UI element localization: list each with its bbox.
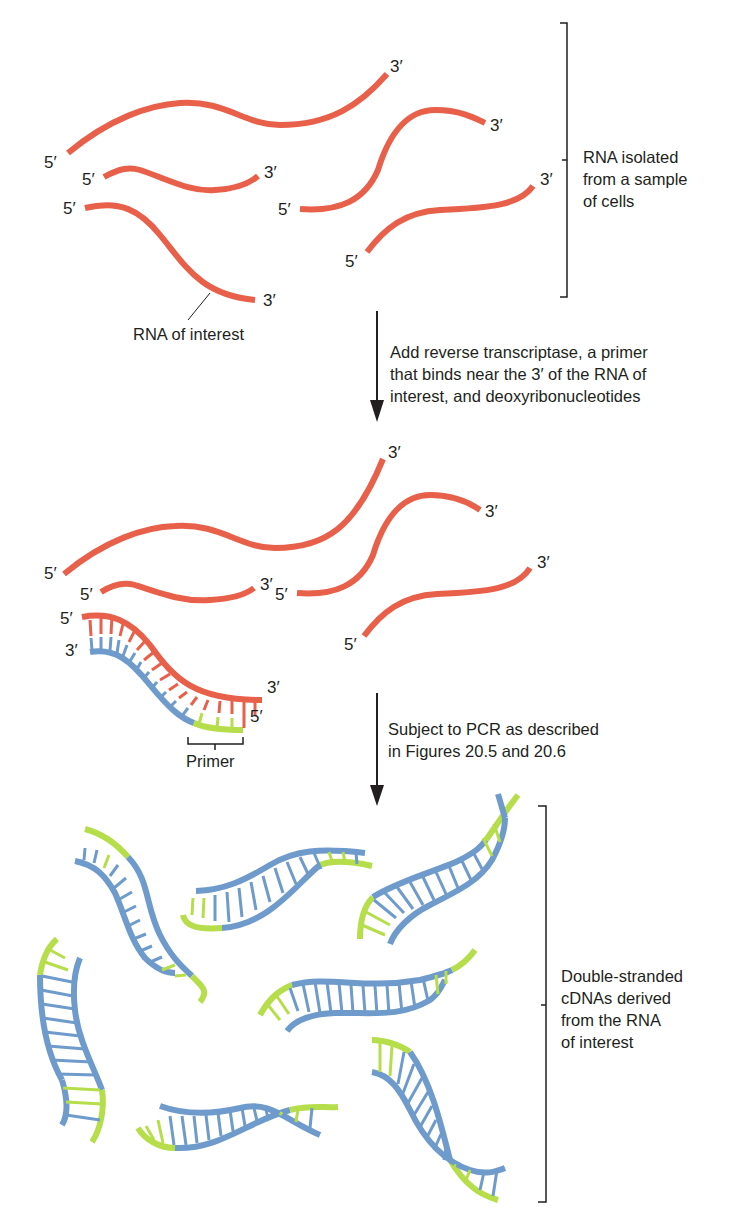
- three-prime-label: 3′: [485, 502, 498, 521]
- three-prime-label: 3′: [267, 678, 280, 697]
- three-prime-label: 3′: [65, 641, 78, 660]
- cdna-molecule: [138, 1106, 338, 1148]
- bracket-rna-isolated: [560, 23, 567, 297]
- arrow-down-icon: [370, 785, 384, 806]
- rna-strand: [68, 74, 387, 153]
- cdna-molecule: [40, 939, 103, 1142]
- five-prime-label: 5′: [44, 153, 57, 172]
- five-prime-label: 5′: [344, 635, 357, 654]
- three-prime-label: 3′: [263, 291, 276, 310]
- label-primer: Primer: [186, 750, 235, 772]
- three-prime-label: 3′: [537, 553, 550, 572]
- five-prime-label: 5′: [44, 564, 57, 583]
- rna-strand: [367, 186, 533, 252]
- rna-strands-with-primer: [64, 459, 530, 730]
- primer-bracket: [188, 737, 243, 750]
- caption-rna-isolated: RNA isolated from a sample of cells: [583, 146, 688, 212]
- rna-strand-of-interest: [85, 205, 255, 300]
- three-prime-label: 3′: [390, 57, 403, 76]
- bracket-cdnas: [538, 806, 546, 1202]
- cdna-molecule: [260, 950, 475, 1031]
- caption-step2: Subject to PCR as described in Figures 2…: [388, 718, 599, 762]
- five-prime-label: 5′: [80, 585, 93, 604]
- rna-strand: [104, 168, 258, 190]
- five-prime-label: 5′: [82, 170, 95, 189]
- rna-strand: [300, 110, 485, 209]
- arrow-down-icon: [370, 400, 384, 422]
- five-prime-label: 5′: [345, 252, 358, 271]
- three-prime-label: 3′: [260, 575, 273, 594]
- double-stranded-cdnas: [40, 794, 518, 1200]
- label-rna-of-interest: RNA of interest: [133, 323, 244, 345]
- three-prime-label: 3′: [388, 443, 401, 462]
- five-prime-label: 5′: [278, 200, 291, 219]
- rna-strands-isolated: [68, 74, 533, 300]
- five-prime-label: 5′: [275, 585, 288, 604]
- five-prime-label: 5′: [250, 707, 263, 726]
- end-labels-section1: 5′ 3′ 5′ 3′ 5′ 3′ 5′ 3′ 3′ 5′: [44, 57, 553, 310]
- caption-double-stranded-cdnas: Double-stranded cDNAs derived from the R…: [561, 965, 683, 1053]
- cdna-molecule: [372, 1040, 505, 1200]
- cdna-molecule: [360, 794, 518, 944]
- five-prime-label: 5′: [63, 199, 76, 218]
- cdna-molecule: [183, 851, 372, 929]
- five-prime-label: 5′: [60, 609, 73, 628]
- cdna-strand: [90, 651, 194, 723]
- pointer-line: [188, 293, 210, 320]
- caption-step1: Add reverse transcriptase, a primer that…: [390, 341, 648, 407]
- three-prime-label: 3′: [264, 163, 277, 182]
- three-prime-label: 3′: [540, 170, 553, 189]
- three-prime-label: 3′: [490, 116, 503, 135]
